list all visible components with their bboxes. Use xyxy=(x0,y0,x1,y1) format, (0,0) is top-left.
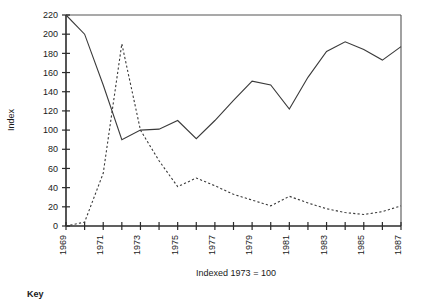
y-tick-label: 220 xyxy=(43,10,58,20)
y-tick-label: 40 xyxy=(48,183,58,193)
y-tick-label: 80 xyxy=(48,144,58,154)
y-tick-label: 160 xyxy=(43,68,58,78)
y-tick-label: 200 xyxy=(43,29,58,39)
y-tick-label: 180 xyxy=(43,49,58,59)
x-tick-label: 1987 xyxy=(393,235,403,255)
line-chart: 020406080100120140160180200220 196919711… xyxy=(0,0,427,307)
x-tick-label: 1981 xyxy=(281,235,291,255)
x-tick-label: 1979 xyxy=(244,235,254,255)
y-tick-label: 120 xyxy=(43,106,58,116)
y-axis-tick-labels: 020406080100120140160180200220 xyxy=(43,10,58,231)
y-tick-label: 20 xyxy=(48,202,58,212)
x-tick-label: 1971 xyxy=(95,235,105,255)
x-tick-label: 1983 xyxy=(319,235,329,255)
y-axis-title: Index xyxy=(6,108,16,131)
x-tick-label: 1977 xyxy=(207,235,217,255)
chart-line-series-dashed xyxy=(66,44,401,226)
y-tick-label: 0 xyxy=(53,221,58,231)
x-tick-label: 1975 xyxy=(170,235,180,255)
x-tick-label: 1973 xyxy=(132,235,142,255)
x-tick-label: 1969 xyxy=(58,235,68,255)
x-axis-tick-labels: 1969197119731975197719791981198319851987 xyxy=(58,235,403,255)
chart-line-series-solid xyxy=(66,15,401,140)
y-tick-label: 60 xyxy=(48,164,58,174)
x-axis-title: Indexed 1973 = 100 xyxy=(196,268,276,278)
legend-heading: Key xyxy=(27,289,44,299)
chart-series-group xyxy=(66,15,401,226)
y-tick-label: 100 xyxy=(43,125,58,135)
y-tick-label: 140 xyxy=(43,87,58,97)
chart-figure: 020406080100120140160180200220 196919711… xyxy=(0,0,427,307)
x-tick-label: 1985 xyxy=(356,235,366,255)
